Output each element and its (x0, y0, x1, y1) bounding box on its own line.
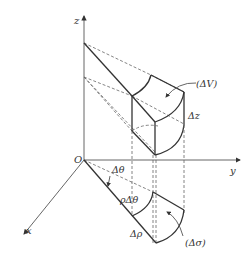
x-axis-label: x (26, 225, 32, 236)
solid-top-edge (84, 43, 132, 96)
dash-top-outer (84, 43, 151, 75)
dash-inner-arc (132, 125, 158, 131)
dtheta-label: Δθ (111, 164, 125, 175)
z-axis-label: z (73, 15, 80, 26)
rho-dtheta-label: ρΔθ (119, 194, 138, 205)
box-top-outer-arc (155, 92, 184, 122)
dash-low-2 (132, 96, 184, 124)
volume-label: (ΔV) (196, 78, 217, 89)
base-top-edge (153, 192, 184, 210)
box-top-back (151, 75, 184, 92)
cylindrical-volume-element-diagram: z y x O (ΔV) Δz Δθ ρΔθ Δρ (Δσ) (0, 0, 249, 265)
box-bottom-front (132, 131, 155, 155)
dz-label: Δz (187, 110, 201, 121)
dtheta-arc (108, 176, 110, 186)
x-axis (24, 160, 84, 234)
drho-label: Δρ (129, 228, 143, 239)
y-axis-label: y (229, 165, 236, 176)
origin-label: O (74, 154, 82, 165)
box-bottom-outer-arc (155, 125, 184, 155)
box-top-front (132, 96, 155, 122)
area-label: (Δσ) (185, 237, 206, 248)
dash-low-4 (84, 77, 155, 152)
box-top-inner-arc (132, 75, 151, 96)
dash-low-1 (84, 77, 132, 96)
